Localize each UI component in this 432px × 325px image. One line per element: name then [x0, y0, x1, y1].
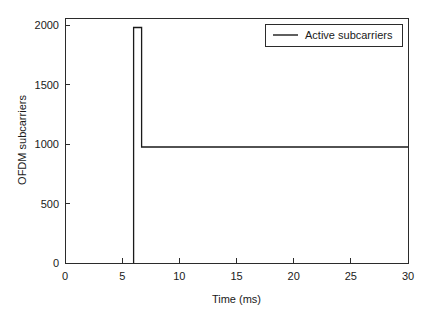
- chart-canvas: 0 500 1000 1500 2000 0 5 10 15 20 25 30: [0, 0, 432, 325]
- x-axis-title: Time (ms): [212, 293, 261, 305]
- x-tick-label-30: 30: [402, 270, 414, 282]
- y-tick-label-1000: 1000: [35, 138, 59, 150]
- x-tick-label-25: 25: [345, 270, 357, 282]
- y-tick-label-1500: 1500: [35, 79, 59, 91]
- x-tick-label-20: 20: [288, 270, 300, 282]
- x-tick-label-5: 5: [119, 270, 125, 282]
- y-tick-label-2000: 2000: [35, 19, 59, 31]
- y-tick-label-0: 0: [53, 257, 59, 269]
- chart-figure: 0 500 1000 1500 2000 0 5 10 15 20 25 30: [0, 0, 432, 325]
- legend-label-active-subcarriers: Active subcarriers: [305, 29, 393, 41]
- y-tick-label-500: 500: [41, 198, 59, 210]
- legend[interactable]: Active subcarriers: [265, 24, 402, 46]
- x-tick-label-10: 10: [173, 270, 185, 282]
- y-axis-title: OFDM subcarriers: [16, 95, 28, 185]
- x-tick-label-0: 0: [62, 270, 68, 282]
- x-tick-label-15: 15: [230, 270, 242, 282]
